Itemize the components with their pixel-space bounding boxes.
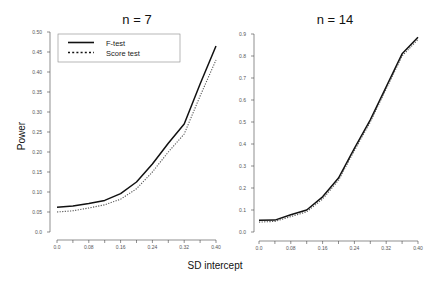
y-tick-label: 0.35 xyxy=(32,89,42,95)
y-tick-label: 0.6 xyxy=(239,97,246,103)
y-tick-label: 0.4 xyxy=(239,141,246,147)
series-lines xyxy=(259,37,418,222)
x-tick-label: 0.16 xyxy=(318,245,328,251)
series-lines xyxy=(57,46,216,212)
y-axis: 0.00.10.20.30.40.50.60.70.80.9 xyxy=(239,31,254,235)
x-tick-label: 0.40 xyxy=(211,244,221,250)
f-test-line xyxy=(57,46,216,207)
x-tick-label: 0.0 xyxy=(54,244,61,250)
y-tick-label: 0.0 xyxy=(239,229,246,235)
x-tick-label: 0.16 xyxy=(116,244,126,250)
y-tick-label: 0.1 xyxy=(239,207,246,213)
panel-n14: n = 14 0.00.10.20.30.40.50.60.70.80.9 0.… xyxy=(239,12,423,251)
x-tick-label: 0.32 xyxy=(381,245,391,251)
score-test-line xyxy=(57,60,216,212)
y-tick-label: 0.05 xyxy=(32,209,42,215)
x-tick-label: 0.08 xyxy=(84,244,94,250)
y-tick-label: 0.9 xyxy=(239,31,246,37)
y-tick-label: 0.25 xyxy=(32,129,42,135)
x-axis: 0.00.080.160.240.320.40 xyxy=(256,241,424,251)
legend: F-test Score test xyxy=(58,34,180,62)
y-axis-label: Power xyxy=(16,121,27,150)
y-tick-label: 0.30 xyxy=(32,109,42,115)
x-tick-label: 0.40 xyxy=(413,245,423,251)
x-tick-label: 0.24 xyxy=(148,244,158,250)
x-tick-label: 0.08 xyxy=(286,245,296,251)
y-axis: 0.00.050.100.150.200.250.300.350.400.450… xyxy=(32,29,50,235)
panel-title: n = 14 xyxy=(317,12,354,27)
x-tick-label: 0.24 xyxy=(350,245,360,251)
x-tick-label: 0.32 xyxy=(179,244,189,250)
x-tick-label: 0.0 xyxy=(256,245,263,251)
y-tick-label: 0.15 xyxy=(32,169,42,175)
legend-label-f-test: F-test xyxy=(106,39,126,48)
f-test-line xyxy=(259,37,418,220)
y-tick-label: 0.50 xyxy=(32,29,42,35)
y-tick-label: 0.20 xyxy=(32,149,42,155)
figure: n = 7 0.00.050.100.150.200.250.300.350.4… xyxy=(0,0,445,286)
y-tick-label: 0.0 xyxy=(35,229,42,235)
y-tick-label: 0.45 xyxy=(32,49,42,55)
legend-label-score-test: Score test xyxy=(106,49,141,58)
y-tick-label: 0.10 xyxy=(32,189,42,195)
panel-n7: n = 7 0.00.050.100.150.200.250.300.350.4… xyxy=(32,12,221,250)
y-tick-label: 0.5 xyxy=(239,119,246,125)
y-tick-label: 0.40 xyxy=(32,69,42,75)
x-axis: 0.00.080.160.240.320.40 xyxy=(54,240,222,250)
y-tick-label: 0.2 xyxy=(239,185,246,191)
y-tick-label: 0.3 xyxy=(239,163,246,169)
x-axis-label: SD intercept xyxy=(187,260,242,271)
y-tick-label: 0.7 xyxy=(239,75,246,81)
panel-title: n = 7 xyxy=(122,12,151,27)
y-tick-label: 0.8 xyxy=(239,53,246,59)
score-test-line xyxy=(259,40,418,223)
